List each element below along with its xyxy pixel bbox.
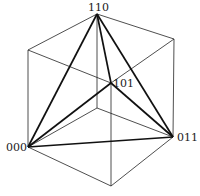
edge-left-bottom — [28, 147, 111, 186]
tet-edge-110-011 — [97, 14, 173, 137]
label-110: 110 — [88, 1, 109, 14]
edge-upperright-right — [173, 39, 174, 137]
edge-top-upperleft — [28, 14, 97, 50]
label-101: 101 — [113, 77, 134, 90]
tetrahedron-edges — [28, 14, 173, 147]
cube-edges — [28, 14, 174, 186]
label-011: 011 — [177, 131, 198, 144]
edge-right-bottom — [111, 137, 173, 186]
tet-edge-000-011 — [28, 137, 173, 147]
tet-edge-000-101 — [28, 83, 111, 147]
edge-top-upperright — [97, 14, 174, 39]
tet-edge-011-101 — [111, 83, 173, 137]
label-000: 000 — [6, 141, 27, 154]
edge-right-back — [97, 108, 173, 137]
cube-diagram: 110 000 011 101 — [0, 0, 200, 196]
